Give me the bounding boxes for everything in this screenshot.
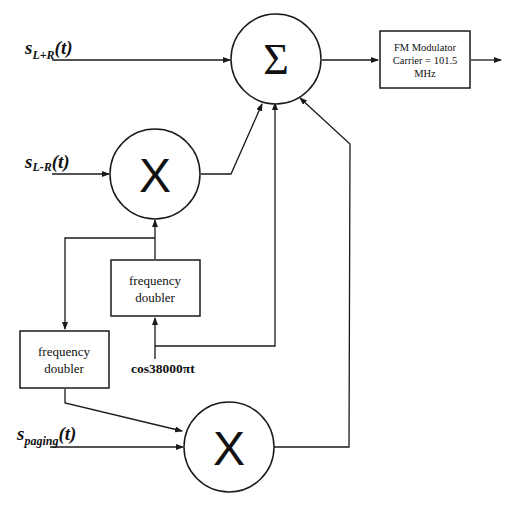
doubler1-box [111,260,200,316]
fm-modulator-label-2: Carrier = 101.5 [393,55,458,66]
signal-label-spaging: spaging(t) [16,423,76,448]
fm-modulator-label-1: FM Modulator [394,42,457,53]
wire-mixer1-to-summer [201,104,262,174]
sigma-icon: Σ [263,35,289,84]
doubler2-block: frequency doubler [20,331,109,388]
doubler1-label-1: frequency [129,273,181,288]
doubler1-label-2: doubler [135,290,175,305]
wire-mixer2-to-summer [274,98,350,447]
doubler1-block: frequency doubler [111,260,200,316]
mixer1-block: X [110,129,200,219]
carrier-label: cos38000πt [131,361,195,376]
doubler2-label-1: frequency [38,344,90,359]
connections [50,60,501,447]
multiply-icon: X [139,149,171,202]
fm-modulator-label-3: MHz [414,68,436,79]
fm-modulator-block: FM Modulator Carrier = 101.5 MHz [380,31,470,88]
doubler2-box [20,331,109,388]
summing-junction: Σ [231,14,321,104]
wire-doubler2-to-mixer2 [65,389,182,431]
signal-label-slmr: sL-R(t) [24,151,70,174]
block-diagram: Σ FM Modulator Carrier = 101.5 MHz X fre… [0,0,518,515]
doubler2-label-2: doubler [44,361,84,376]
mixer2-block: X [184,402,274,492]
multiply-icon: X [213,422,245,475]
signal-label-slpr: sL+R(t) [24,37,73,62]
